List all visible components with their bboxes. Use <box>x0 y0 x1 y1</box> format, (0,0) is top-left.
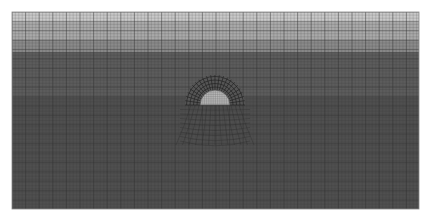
fem-mesh-canvas <box>0 0 428 218</box>
mesh-figure <box>0 0 428 218</box>
